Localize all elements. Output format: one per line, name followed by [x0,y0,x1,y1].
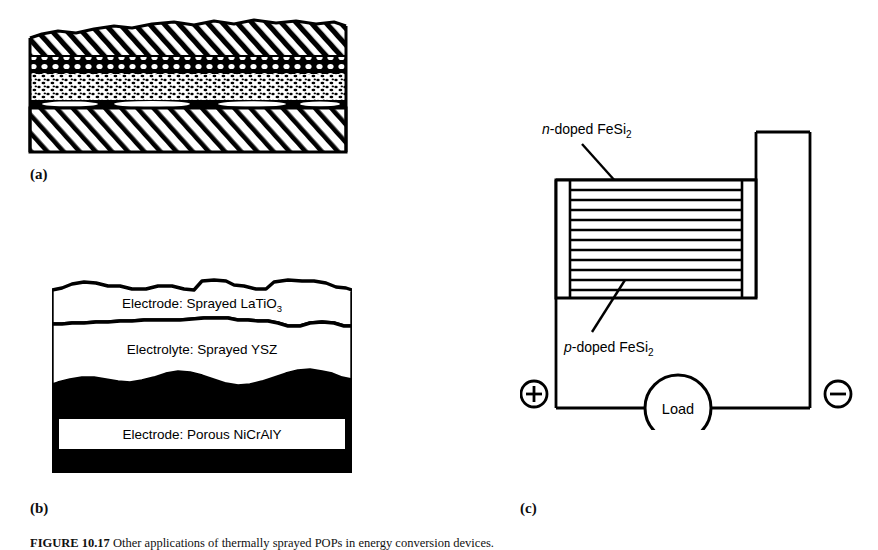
layer-coarse-porous [28,55,348,75]
p-doped-label: p-doped FeSi2 [563,339,654,358]
panel-a-drawing [28,8,348,158]
electrolyte-label: Electrolyte: Sprayed YSZ [127,342,278,357]
layer-fine-porous [28,73,348,101]
electrode-bottom-label: Electrode: Porous NiCrAlY [122,427,281,442]
panel-c-drawing: n-doped FeSi2 [520,120,865,430]
panel-b-drawing: Electrode: Sprayed LaTiO3 Electrolyte: S… [52,268,352,498]
panel-b-fuel-cell-stack: Electrode: Sprayed LaTiO3 Electrolyte: S… [52,268,352,498]
positive-terminal-icon [521,381,547,407]
panel-b-label: (b) [30,500,48,517]
thermoelectric-block [556,180,756,298]
caption-label: FIGURE 10.17 [30,536,110,550]
layer-electrode-nicraly: Electrode: Porous NiCrAlY [52,370,352,473]
load-element: Load [645,375,711,430]
layer-substrate [30,108,346,152]
figure-caption: FIGURE 10.17 Other applications of therm… [30,536,860,550]
load-label: Load [662,401,694,417]
negative-terminal-icon [825,381,851,407]
panel-a-cross-section [28,8,348,158]
panel-c-thermoelectric-module: n-doped FeSi2 [520,120,865,430]
n-doped-label: n-doped FeSi2 [542,121,632,140]
caption-body: Other applications of thermally sprayed … [113,536,494,550]
panel-a-label: (a) [30,166,48,183]
panel-c-label: (c) [520,500,537,517]
